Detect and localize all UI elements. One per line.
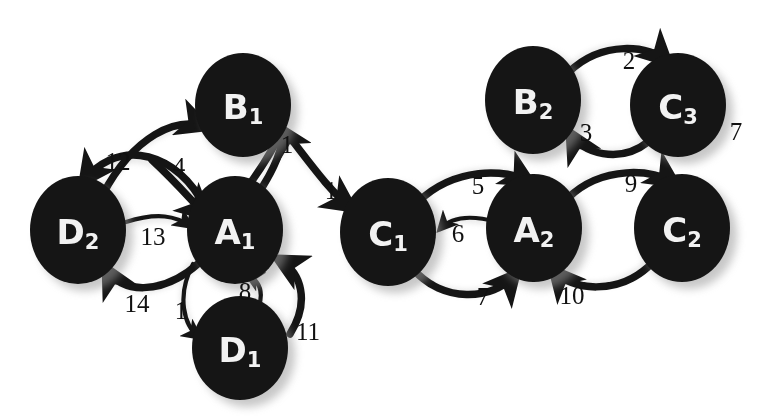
- node-D1[interactable]: D1: [192, 296, 295, 407]
- node-D2-sub: 2: [85, 230, 100, 254]
- edge-label-13: 13: [141, 223, 166, 250]
- node-C3-letter: C: [658, 87, 683, 127]
- edge-label-7-c3: 7: [730, 118, 743, 145]
- edge-label-1-a1-d1: 1: [175, 297, 188, 324]
- node-B2-letter: B: [513, 82, 539, 122]
- node-A1[interactable]: A1: [187, 176, 290, 291]
- node-D1-sub: 1: [247, 348, 262, 372]
- edge-label-9: 9: [625, 170, 638, 197]
- node-C3-sub: 3: [683, 105, 698, 129]
- edge-label-4: 4: [173, 153, 186, 180]
- edge-label-1-b1-c1: 1: [325, 177, 338, 204]
- node-D1-letter: D: [219, 330, 247, 370]
- edge-label-14: 14: [125, 290, 151, 317]
- edge-label-1-a1-b1: 1: [281, 131, 294, 158]
- edge-label-3: 3: [580, 119, 593, 146]
- graph-svg: B1 D2 A1: [0, 0, 777, 419]
- diagram-canvas: B1 D2 A1: [0, 0, 777, 419]
- node-B1-sub: 1: [249, 105, 264, 129]
- node-D2-letter: D: [57, 212, 85, 252]
- node-C1-letter: C: [368, 214, 393, 254]
- node-layer: B1 D2 A1: [30, 46, 737, 407]
- node-B2-sub: 2: [539, 100, 554, 124]
- node-C2-sub: 2: [687, 228, 702, 252]
- edge-label-5: 5: [472, 172, 485, 199]
- node-C1-sub: 1: [393, 232, 408, 256]
- node-A1-sub: 1: [241, 230, 256, 254]
- node-C2[interactable]: C2: [634, 174, 737, 289]
- node-D2[interactable]: D2: [30, 176, 133, 291]
- node-A2-letter: A: [514, 210, 541, 250]
- edge-label-8: 8: [239, 278, 252, 305]
- edge-label-10: 10: [560, 282, 585, 309]
- node-A2-sub: 2: [540, 228, 555, 252]
- edge-label-12: 12: [106, 148, 131, 175]
- edge-label-6: 6: [452, 220, 465, 247]
- edge-1-b1-c1[interactable]: [285, 131, 352, 208]
- edge-label-7-c1-a2: 7: [477, 283, 490, 310]
- node-A1-letter: A: [215, 212, 242, 252]
- edge-label-2: 2: [623, 47, 636, 74]
- node-B1-letter: B: [223, 87, 249, 127]
- node-C2-letter: C: [662, 210, 687, 250]
- edge-label-11: 11: [296, 318, 320, 345]
